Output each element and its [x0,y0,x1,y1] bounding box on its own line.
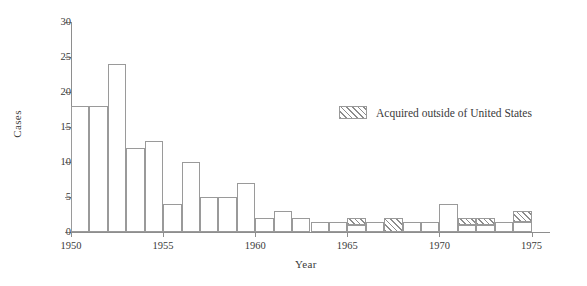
bar-1972-domestic [476,225,494,232]
x-tick-1970 [439,232,440,237]
y-tick-label: 10 [49,157,71,167]
y-tick-label-wrap: 30 [38,17,71,27]
bar-1959-domestic [237,183,255,232]
x-axis-line [71,232,550,233]
y-tick-label-wrap: 15 [38,122,71,132]
bar-1967-acquired-outside [384,218,402,232]
x-tick-1955 [163,232,164,237]
y-tick-label-wrap: 10 [38,157,71,167]
x-tick-1950 [71,232,72,237]
x-tick-label: 1955 [143,240,183,252]
bar-1971-domestic [458,225,476,232]
legend-hatch-swatch-icon [339,106,367,119]
bar-1953-domestic [126,148,144,232]
x-tick-label: 1950 [51,240,91,252]
bar-1968-domestic [403,222,421,233]
bar-1954-domestic [145,141,163,232]
x-tick-1975 [532,232,533,237]
y-tick-label-wrap: 5 [38,192,71,202]
bar-1952-domestic [108,64,126,232]
bar-1974-acquired-outside [513,211,531,222]
x-tick-label: 1975 [512,240,552,252]
bar-1956-domestic [182,162,200,232]
x-tick-1965 [347,232,348,237]
y-tick-label: 25 [49,52,71,62]
bar-1970-domestic [439,204,457,232]
y-tick-label: 0 [49,227,71,237]
chart-legend: Acquired outside of United States [339,106,532,119]
bar-1966-domestic [366,222,384,233]
x-axis-title: Year [276,258,336,270]
x-tick-label: 1965 [327,240,367,252]
legend-label: Acquired outside of United States [376,107,532,119]
y-axis-title: Cases [11,94,23,154]
y-tick-label: 15 [49,122,71,132]
y-tick-label-wrap: 25 [38,52,71,62]
bar-1963-domestic [311,222,329,233]
bar-1971-acquired-outside [458,218,476,225]
bar-1965-domestic [347,225,365,232]
bar-1969-domestic [421,222,439,233]
bar-1964-domestic [329,222,347,233]
bar-1955-domestic [163,204,181,232]
bar-1974-domestic [513,222,531,233]
bar-1957-domestic [200,197,218,232]
bar-1962-domestic [292,218,310,232]
bar-1973-domestic [495,222,513,233]
bar-1950-domestic [71,106,89,232]
x-tick-label: 1960 [235,240,275,252]
y-tick-label: 20 [49,87,71,97]
bar-1972-acquired-outside [476,218,494,225]
x-tick-label: 1970 [419,240,459,252]
y-tick-label-wrap: 20 [38,87,71,97]
bar-1965-acquired-outside [347,218,365,225]
x-tick-1960 [255,232,256,237]
y-tick-label: 30 [49,17,71,27]
case-count-bar-chart: Cases Year 051015202530 1950195519601965… [0,0,587,286]
bar-1960-domestic [255,218,273,232]
y-tick-label-wrap: 0 [38,227,71,237]
y-tick-label: 5 [49,192,71,202]
bar-1961-domestic [274,211,292,232]
bar-1951-domestic [89,106,107,232]
bar-1958-domestic [218,197,236,232]
